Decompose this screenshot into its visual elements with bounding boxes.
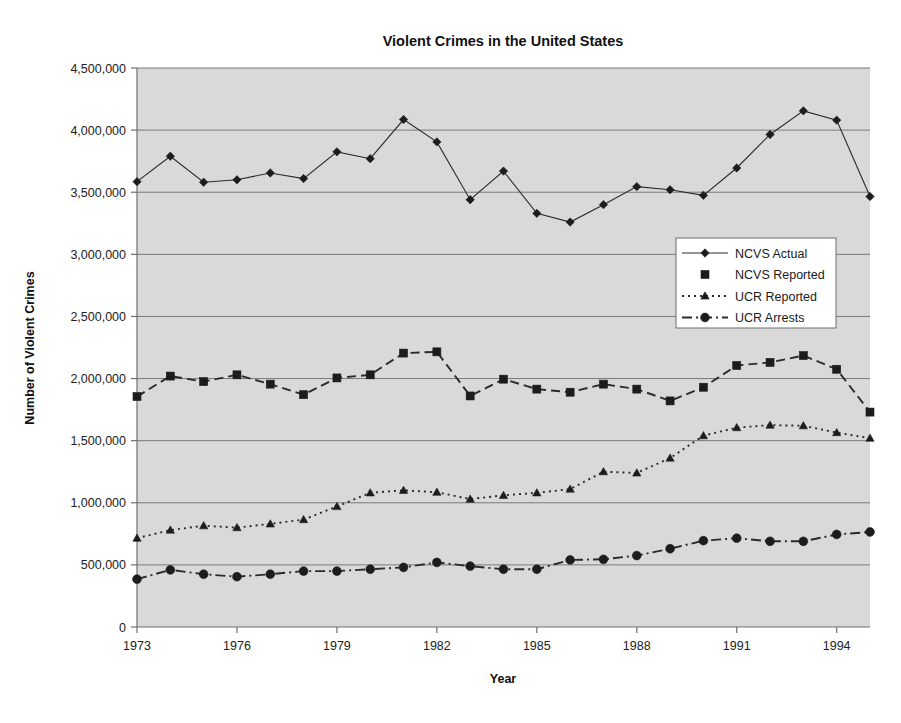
- y-tick-label: 4,000,000: [70, 124, 126, 138]
- data-point: [533, 385, 541, 393]
- data-point: [599, 555, 608, 564]
- data-point: [366, 565, 375, 574]
- x-tick-label: 1985: [523, 639, 551, 653]
- chart-title: Violent Crimes in the United States: [383, 33, 624, 49]
- data-point: [566, 388, 574, 396]
- data-point: [332, 567, 341, 576]
- legend-label: NCVS Reported: [735, 268, 825, 282]
- data-point: [766, 358, 774, 366]
- data-point: [133, 575, 142, 584]
- data-point: [200, 378, 208, 386]
- y-tick-label: 2,500,000: [70, 310, 126, 324]
- data-point: [266, 380, 274, 388]
- data-point: [499, 565, 508, 574]
- legend-marker-circle: [701, 313, 710, 322]
- data-point: [699, 536, 708, 545]
- data-point: [799, 352, 807, 360]
- page-caption-fragment: [42, 704, 682, 720]
- legend-label: NCVS Actual: [735, 247, 807, 261]
- x-tick-label: 1988: [623, 639, 651, 653]
- data-point: [766, 537, 775, 546]
- data-point: [599, 380, 607, 388]
- data-point: [400, 349, 408, 357]
- y-tick-label: 1,500,000: [70, 434, 126, 448]
- y-tick-label: 500,000: [81, 558, 126, 572]
- x-tick-label: 1982: [423, 639, 451, 653]
- y-tick-label: 2,000,000: [70, 372, 126, 386]
- data-point: [532, 565, 541, 574]
- data-point: [466, 562, 475, 571]
- data-point: [166, 372, 174, 380]
- data-point: [133, 393, 141, 401]
- y-axis-title: Number of Violent Crimes: [23, 271, 37, 424]
- data-point: [733, 362, 741, 370]
- data-point: [799, 537, 808, 546]
- violent-crimes-line-chart: Violent Crimes in the United States 0500…: [0, 0, 901, 723]
- data-point: [333, 374, 341, 382]
- x-tick-label: 1979: [323, 639, 351, 653]
- y-tick-label: 3,000,000: [70, 248, 126, 262]
- data-point: [832, 530, 841, 539]
- y-tick-label: 4,500,000: [70, 62, 126, 76]
- data-point: [866, 528, 875, 537]
- data-point: [433, 348, 441, 356]
- legend-label: UCR Arrests: [735, 311, 804, 325]
- x-tick-label: 1994: [823, 639, 851, 653]
- data-point: [166, 565, 175, 574]
- data-point: [500, 375, 508, 383]
- data-point: [699, 383, 707, 391]
- legend-label: UCR Reported: [735, 290, 817, 304]
- data-point: [432, 558, 441, 567]
- y-tick-label: 3,500,000: [70, 186, 126, 200]
- data-point: [366, 371, 374, 379]
- data-point: [732, 534, 741, 543]
- data-point: [233, 572, 242, 581]
- data-point: [300, 391, 308, 399]
- data-point: [666, 397, 674, 405]
- data-point: [199, 570, 208, 579]
- data-point: [233, 371, 241, 379]
- x-tick-label: 1973: [123, 639, 151, 653]
- data-point: [866, 408, 874, 416]
- x-tick-label: 1991: [723, 639, 751, 653]
- chart-figure: Violent Crimes in the United States 0500…: [0, 0, 901, 723]
- data-point: [466, 392, 474, 400]
- data-point: [299, 567, 308, 576]
- data-point: [633, 385, 641, 393]
- data-point: [666, 544, 675, 553]
- data-point: [266, 570, 275, 579]
- legend-marker-square: [701, 271, 709, 279]
- chart-legend[interactable]: NCVS ActualNCVS ReportedUCR ReportedUCR …: [676, 238, 836, 328]
- data-point: [399, 563, 408, 572]
- x-axis-title: Year: [490, 672, 517, 686]
- y-tick-label: 1,000,000: [70, 496, 126, 510]
- data-point: [833, 365, 841, 373]
- plot-area-background: [137, 68, 870, 627]
- data-point: [566, 556, 575, 565]
- data-point: [632, 551, 641, 560]
- y-tick-label: 0: [119, 621, 126, 635]
- x-tick-label: 1976: [223, 639, 251, 653]
